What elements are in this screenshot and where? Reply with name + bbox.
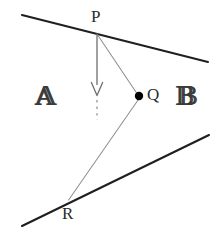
refraction-figure: P Q R 𝔸 𝔹: [0, 0, 218, 232]
point-label-r: R: [62, 205, 73, 222]
region-label-a: 𝔸: [35, 84, 55, 110]
lower-boundary-line: [22, 135, 209, 226]
upper-boundary-line: [22, 15, 208, 62]
point-label-p: P: [91, 8, 100, 25]
point-label-q: Q: [147, 86, 159, 103]
ray-segment-qr: [69, 99, 139, 200]
point-marker-q: [135, 92, 143, 100]
region-label-b: 𝔹: [175, 84, 197, 110]
figure-canvas: [0, 0, 218, 232]
